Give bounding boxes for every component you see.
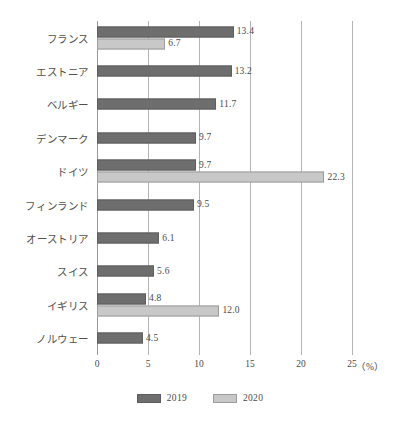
bar-chart: フランス13.46.7エストニア13.2ベルギー11.7デンマーク9.7ドイツ9… (0, 0, 400, 427)
category-label: ドイツ (57, 164, 89, 179)
bar-value-label: 4.5 (143, 333, 158, 343)
bar-group: 11.7 (97, 98, 400, 111)
bar-value-label: 5.6 (154, 266, 169, 276)
bar-group: 13.2 (97, 65, 400, 78)
category-label: スイス (57, 264, 89, 279)
bar-2019[interactable] (97, 293, 146, 304)
bar-value-label: 12.0 (219, 306, 239, 316)
bar-value-label: 4.8 (146, 294, 161, 304)
legend-item-2019[interactable]: 2019 (137, 393, 187, 403)
bar-group: 6.1 (97, 232, 400, 245)
bar-group: 9.5 (97, 198, 400, 211)
category-label: ベルギー (47, 97, 89, 112)
category-row: イギリス4.812.0 (97, 288, 400, 321)
bar-value-label: 9.5 (194, 199, 209, 209)
bar-wrapper: 9.7 (97, 132, 400, 143)
bar-2019[interactable] (97, 160, 196, 171)
bar-value-label: 6.7 (165, 38, 180, 48)
x-tick-label: 15 (245, 359, 255, 369)
bar-value-label: 9.7 (196, 160, 211, 170)
bar-wrapper: 6.1 (97, 233, 400, 244)
legend-swatch-icon (137, 394, 161, 403)
bar-wrapper: 11.7 (97, 99, 400, 110)
category-label: エストニア (36, 64, 89, 79)
category-label: フィンランド (25, 197, 89, 212)
bar-2019[interactable] (97, 333, 143, 344)
x-axis-unit-label: （%） (356, 359, 384, 373)
bar-wrapper: 12.0 (97, 305, 400, 316)
bar-wrapper: 9.7 (97, 160, 400, 171)
bar-wrapper: 4.5 (97, 333, 400, 344)
category-row: フランス13.46.7 (97, 21, 400, 54)
category-row: ノルウェー4.5 (97, 322, 400, 355)
bar-2019[interactable] (97, 26, 234, 37)
bar-2020[interactable] (97, 305, 219, 316)
category-label: デンマーク (36, 130, 89, 145)
category-row: ドイツ9.722.3 (97, 155, 400, 188)
legend-item-2020[interactable]: 2020 (213, 393, 263, 403)
legend-label: 2019 (167, 393, 187, 403)
x-tick-label: 20 (296, 359, 306, 369)
bar-2019[interactable] (97, 266, 154, 277)
plot-area: フランス13.46.7エストニア13.2ベルギー11.7デンマーク9.7ドイツ9… (97, 21, 352, 355)
x-tick-label: 5 (146, 359, 151, 369)
bar-wrapper: 6.7 (97, 38, 400, 49)
bar-group: 4.812.0 (97, 292, 400, 317)
category-row: スイス5.6 (97, 255, 400, 288)
bar-wrapper: 22.3 (97, 172, 400, 183)
bar-group: 4.5 (97, 332, 400, 345)
category-label: イギリス (47, 297, 89, 312)
bar-value-label: 13.2 (232, 66, 252, 76)
bar-group: 13.46.7 (97, 25, 400, 50)
bar-2019[interactable] (97, 66, 232, 77)
category-label: ノルウェー (36, 331, 89, 346)
bar-value-label: 11.7 (216, 99, 236, 109)
category-label: フランス (47, 30, 89, 45)
bar-group: 9.722.3 (97, 159, 400, 184)
bar-group: 5.6 (97, 265, 400, 278)
bar-2019[interactable] (97, 132, 196, 143)
chart-legend: 20192020 (0, 393, 400, 403)
bar-group: 9.7 (97, 131, 400, 144)
bar-value-label: 22.3 (324, 172, 344, 182)
bar-wrapper: 13.2 (97, 66, 400, 77)
category-label: オーストリア (26, 231, 89, 246)
category-row: ベルギー11.7 (97, 88, 400, 121)
bar-wrapper: 9.5 (97, 199, 400, 210)
bar-2020[interactable] (97, 172, 324, 183)
bar-value-label: 13.4 (234, 26, 254, 36)
category-row: エストニア13.2 (97, 54, 400, 87)
x-tick-label: 10 (194, 359, 204, 369)
bar-2019[interactable] (97, 233, 159, 244)
bar-wrapper: 5.6 (97, 266, 400, 277)
category-row: フィンランド9.5 (97, 188, 400, 221)
bar-2020[interactable] (97, 38, 165, 49)
bar-wrapper: 13.4 (97, 26, 400, 37)
legend-label: 2020 (243, 393, 263, 403)
bar-wrapper: 4.8 (97, 293, 400, 304)
category-row: デンマーク9.7 (97, 121, 400, 154)
x-tick-label: 0 (95, 359, 100, 369)
bar-value-label: 9.7 (196, 133, 211, 143)
bar-2019[interactable] (97, 199, 194, 210)
legend-swatch-icon (213, 394, 237, 403)
bar-value-label: 6.1 (159, 233, 174, 243)
category-row: オーストリア6.1 (97, 221, 400, 254)
bar-2019[interactable] (97, 99, 216, 110)
x-axis: 0510152025（%） (97, 355, 352, 377)
